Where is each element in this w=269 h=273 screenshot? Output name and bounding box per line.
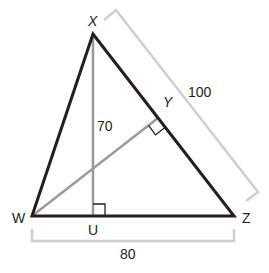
vertex-label-z: Z	[242, 210, 251, 226]
vertex-label-y: Y	[163, 94, 174, 110]
triangle-diagram: X Y W U Z 70 100 80	[0, 0, 269, 273]
wz-dimension-bracket	[32, 229, 234, 241]
length-label-wz: 80	[120, 246, 136, 262]
vertex-label-x: X	[87, 13, 98, 29]
xz-dimension-bracket	[104, 10, 258, 201]
length-label-xz: 100	[188, 84, 212, 100]
right-angle-marker-y	[149, 125, 165, 134]
right-angle-marker-u	[93, 204, 105, 216]
vertex-label-u: U	[88, 222, 98, 238]
vertex-label-w: W	[12, 210, 26, 226]
length-label-xu: 70	[97, 118, 113, 134]
triangle-wxz	[32, 34, 234, 216]
altitude-wy	[32, 118, 158, 216]
